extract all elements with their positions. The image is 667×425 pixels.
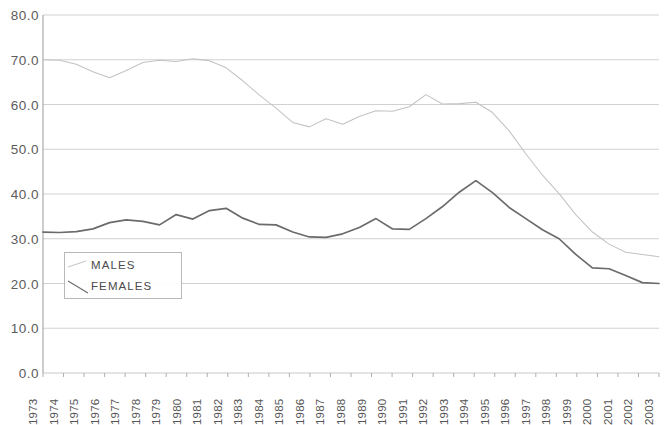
legend-item-males: MALES [65,254,181,276]
x-axis-tick-label: 1987 [314,399,326,425]
males-line-swatch [65,257,91,273]
y-axis-tick-label: 0.0 [19,366,39,381]
x-axis-tick-label: 1975 [68,399,80,425]
x-axis-tick-label: 2003 [643,399,655,425]
y-axis-tick-label: 40.0 [11,187,39,202]
y-axis-tick-label: 60.0 [11,97,39,112]
legend-item-females: FEMALES [65,275,181,297]
x-axis-tick-label: 1974 [48,399,60,425]
x-axis-tick-label: 1996 [499,399,511,425]
x-axis-tick-label: 1985 [273,399,285,425]
x-axis-tick-label: 1983 [232,399,244,425]
y-axis-tick-label: 80.0 [11,8,39,23]
x-axis-tick-label: 1999 [561,399,573,425]
x-axis-tick-label: 1976 [89,399,101,425]
x-axis: 1973197419751976197719781979198019811982… [43,376,659,425]
x-axis-tick-label: 1982 [212,399,224,425]
x-axis-tick-label: 1998 [540,399,552,425]
line-chart: 80.070.060.050.040.030.020.010.00.0 1973… [0,0,667,425]
x-axis-tick-label: 1979 [150,399,162,425]
x-axis-tick-label: 2000 [581,399,593,425]
x-axis-tick-label: 1989 [356,399,368,425]
legend: MALES FEMALES [64,252,182,299]
y-axis: 80.070.060.050.040.030.020.010.00.0 [0,0,39,388]
plot-canvas [43,15,659,373]
x-axis-tick-label: 1973 [27,399,39,425]
y-axis-tick-label: 70.0 [11,52,39,67]
legend-label-males: MALES [91,259,136,271]
x-axis-tick-label: 1986 [294,399,306,425]
y-axis-tick-label: 10.0 [11,321,39,336]
x-axis-tick-label: 1977 [109,399,121,425]
y-axis-tick-label: 50.0 [11,142,39,157]
x-axis-tick-label: 1980 [171,399,183,425]
data-series [43,59,659,284]
x-axis-tick-label: 2001 [602,399,614,425]
legend-label-females: FEMALES [91,280,152,292]
x-axis-tick-label: 1994 [458,399,470,425]
x-axis-tick-label: 1988 [335,399,347,425]
plot-area [43,15,659,373]
series-line-females [43,59,659,257]
females-line-swatch [65,278,91,294]
x-axis-tick-label: 1995 [479,399,491,425]
gridlines [43,15,659,373]
x-axis-tick-label: 2002 [622,399,634,425]
x-axis-tick-label: 1978 [130,399,142,425]
x-axis-tick-label: 1981 [191,399,203,425]
y-axis-tick-label: 30.0 [11,231,39,246]
x-axis-tick-label: 1984 [253,399,265,425]
x-axis-tick-label: 1993 [438,399,450,425]
x-axis-tick-label: 1992 [417,399,429,425]
x-axis-tick-label: 1990 [376,399,388,425]
y-axis-tick-label: 20.0 [11,276,39,291]
x-axis-tick-label: 1997 [520,399,532,425]
x-axis-tick-label: 1991 [397,399,409,425]
